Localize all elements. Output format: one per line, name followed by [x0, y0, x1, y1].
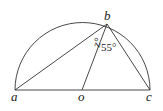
label-a: a	[11, 89, 18, 104]
angle-55-label: 55°	[101, 41, 116, 53]
chord-ab	[15, 24, 107, 90]
label-b: b	[104, 8, 111, 23]
label-o: o	[78, 89, 85, 104]
chord-bc	[107, 24, 150, 90]
label-c: c	[146, 89, 152, 104]
geometry-diagram: a o c b z° 55°	[0, 0, 163, 111]
semicircle-arc	[15, 23, 150, 90]
radius-ob	[82, 24, 107, 90]
